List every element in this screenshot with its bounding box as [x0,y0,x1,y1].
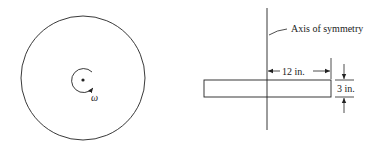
disk-outline [21,16,145,140]
disk-cross-section [204,80,331,97]
axis-label: Axis of symmetry [291,23,363,34]
radius-label: 12 in. [282,66,305,77]
axis-label-leader [269,29,287,35]
thickness-label: 3 in. [337,83,355,94]
disk-top-view: ω [21,16,145,140]
center-dot [81,78,84,81]
disk-diagram: ω Axis of symmetry 12 in. 3 in. [0,0,382,150]
disk-side-view: Axis of symmetry 12 in. 3 in. [204,8,363,130]
omega-label: ω [91,92,98,103]
